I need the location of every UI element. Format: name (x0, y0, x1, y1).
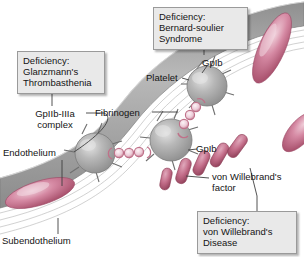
label-gpib-top: GpIb (202, 57, 223, 68)
callout-box-glanzmann[interactable]: Deficiency: Glanzmann's Thrombasthenia (17, 51, 105, 94)
label-endothelium: Endothelium (3, 147, 56, 158)
diagram-canvas: Deficiency: Glanzmann's Thrombasthenia D… (0, 0, 304, 257)
label-von-willebrand-factor: von Willebrand's factor (212, 172, 281, 193)
label-platelet: Platelet (146, 72, 178, 83)
callout-box-von-willebrand-disease[interactable]: Deficiency: von Willebrand's Disease (197, 211, 297, 254)
label-fibrinogen: Fibrinogen (95, 107, 140, 118)
callout-box-bernard-soulier[interactable]: Deficiency: Bernard-soulier Syndrome (153, 7, 248, 50)
label-subendothelium: Subendothelium (2, 235, 71, 246)
label-gpib-middle: GpIb (196, 143, 217, 154)
label-gp2b3a-complex: GpIIb-IIIa complex (24, 108, 86, 130)
von-willebrand-factor-molecule (159, 167, 173, 191)
von-willebrand-factor-molecule (174, 157, 192, 185)
leader-vwf (186, 176, 209, 178)
von-willebrand-factor-molecule (225, 132, 249, 160)
endothelial-cell (276, 107, 304, 158)
